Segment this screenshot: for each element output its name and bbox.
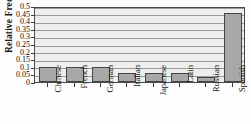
x-axis-tick-label: Japanese: [157, 65, 170, 121]
x-axis-tick-mark: [179, 83, 180, 87]
gridline: [35, 61, 244, 62]
x-axis-tick-mark: [126, 83, 127, 87]
x-axis-tick-label: Latin: [184, 65, 197, 121]
gridline: [35, 53, 244, 54]
x-axis-tick-mark: [74, 83, 75, 87]
x-axis-tick-mark: [100, 83, 101, 87]
x-axis-tick-mark: [153, 83, 154, 87]
gridline: [35, 46, 244, 47]
x-axis-tick-label: Italian: [131, 65, 144, 121]
x-axis-tick-label: German: [104, 65, 117, 121]
x-axis-tick-mark: [232, 83, 233, 87]
x-axis: ChineseFrenchGermanItalianJapaneseLatinR…: [34, 83, 245, 124]
y-axis-tick-label: 0.5: [2, 2, 30, 11]
x-axis-tick-mark: [47, 83, 48, 87]
x-axis-tick-label: French: [78, 65, 91, 121]
gridline: [35, 8, 244, 9]
x-axis-tick-label: Chinese: [52, 65, 65, 121]
bar-chart: Relative Frequency 00.050.10.150.20.250.…: [0, 0, 251, 124]
gridline: [35, 38, 244, 39]
x-axis-tick-label: Russian: [210, 65, 223, 121]
gridline: [35, 23, 244, 24]
x-axis-tick-mark: [205, 83, 206, 87]
gridline: [35, 15, 244, 16]
gridline: [35, 30, 244, 31]
x-axis-tick-label: Spanish: [236, 65, 249, 121]
